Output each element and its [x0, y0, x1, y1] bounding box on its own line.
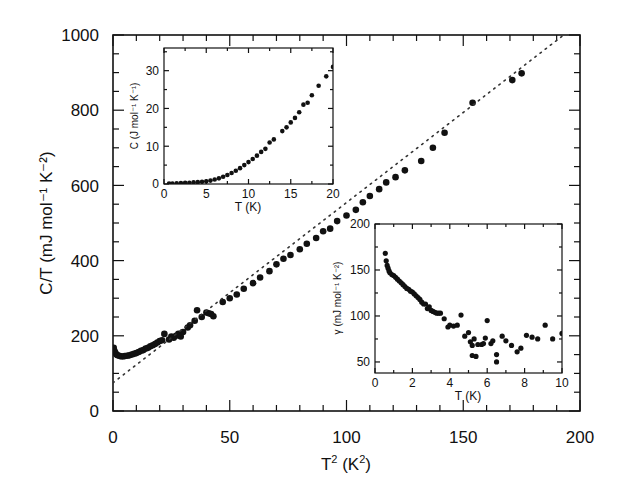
data-point: [509, 77, 516, 84]
data-point: [221, 175, 226, 180]
data-point: [384, 258, 389, 263]
data-point: [441, 129, 448, 136]
y-tick-label: 100: [350, 309, 370, 323]
inset-specific-heat: 051015200102030: [146, 48, 340, 201]
inset1-ylabel: C (J mol⁻¹ K⁻¹): [129, 83, 140, 150]
data-point: [240, 286, 247, 293]
data-point: [466, 330, 471, 335]
x-tick-label: 10: [555, 376, 569, 390]
x-tick-label: 10: [242, 187, 256, 201]
data-point: [242, 163, 247, 168]
x-tick-label: 150: [449, 428, 477, 447]
data-point: [472, 336, 477, 341]
data-point: [250, 157, 255, 162]
data-point: [442, 316, 447, 321]
y-tick-label: 150: [350, 263, 370, 277]
y-tick-label: 20: [146, 102, 160, 116]
data-point: [550, 336, 555, 341]
inset-gamma: 024681050100150200: [350, 217, 569, 390]
x-tick-label: 4: [446, 376, 453, 390]
x-tick-label: 2: [409, 376, 416, 390]
x-tick-label: 100: [332, 428, 360, 447]
data-point: [529, 335, 534, 340]
data-point: [304, 240, 311, 247]
data-point: [273, 261, 280, 268]
data-point: [250, 280, 257, 287]
data-point: [208, 178, 213, 183]
data-point: [490, 338, 495, 343]
data-point: [518, 346, 523, 351]
chart-canvas: 05010015020002004006008001000 C/T (mJ mo…: [0, 0, 620, 496]
data-point: [266, 268, 273, 275]
data-point: [481, 341, 486, 346]
data-point: [518, 70, 525, 77]
y-tick-label: 10: [146, 140, 160, 154]
data-point: [483, 335, 488, 340]
x-tick-label: 20: [326, 187, 340, 201]
data-point: [259, 150, 264, 155]
data-point: [383, 251, 388, 256]
data-point: [500, 334, 505, 339]
x-tick-label: 6: [484, 376, 491, 390]
data-point: [383, 179, 390, 186]
data-point: [430, 145, 437, 152]
data-point: [196, 180, 201, 185]
x-tick-label: 15: [284, 187, 298, 201]
y-tick-label: 0: [152, 177, 159, 191]
data-point: [334, 218, 341, 225]
data-point: [494, 352, 499, 357]
data-point: [255, 153, 260, 158]
y-tick-label: 30: [146, 64, 160, 78]
x-tick-label: 8: [521, 376, 528, 390]
plot-frame: [375, 224, 562, 373]
x-tick-label: 0: [372, 376, 379, 390]
data-point: [438, 311, 443, 316]
x-tick-label: 0: [161, 187, 168, 201]
data-point: [217, 176, 222, 181]
data-point: [503, 338, 508, 343]
data-point: [418, 158, 425, 165]
data-point: [310, 93, 315, 98]
data-point: [200, 179, 205, 184]
data-point: [288, 120, 293, 125]
y-tick-label: 200: [350, 217, 370, 231]
y-tick-label: 400: [71, 252, 99, 271]
y-tick-label: 600: [71, 177, 99, 196]
data-point: [194, 307, 201, 314]
data-point: [470, 343, 475, 348]
data-point: [473, 354, 478, 359]
data-point: [238, 166, 243, 171]
data-point: [229, 171, 234, 176]
data-point: [494, 359, 499, 364]
data-point: [515, 349, 520, 354]
data-point: [313, 235, 320, 242]
data-point: [524, 333, 529, 338]
data-point: [301, 102, 306, 107]
data-point: [305, 100, 310, 105]
data-point: [210, 313, 217, 320]
data-point: [392, 174, 399, 181]
data-point: [284, 125, 289, 130]
x-tick-label: 200: [566, 428, 594, 447]
data-point: [263, 147, 268, 152]
data-point: [353, 207, 360, 214]
inset2-ylabel: γ (mJ mol⁻¹ K⁻²): [332, 262, 343, 335]
main-xlabel: T2 (K2): [321, 453, 371, 474]
data-point: [376, 186, 383, 193]
data-point: [280, 129, 285, 134]
data-point: [327, 225, 334, 232]
data-point: [226, 295, 233, 302]
data-point: [287, 252, 294, 259]
y-tick-label: 0: [90, 402, 99, 421]
data-point: [367, 193, 374, 200]
data-point: [324, 74, 329, 79]
main-ylabel: C/T (mJ mol⁻¹ K⁻²): [37, 151, 56, 294]
data-point: [485, 318, 490, 323]
y-tick-label: 800: [71, 101, 99, 120]
data-point: [509, 343, 514, 348]
data-point: [257, 274, 264, 281]
data-point: [267, 140, 272, 145]
data-point: [462, 334, 467, 339]
data-point: [455, 323, 460, 328]
data-point: [161, 331, 168, 338]
